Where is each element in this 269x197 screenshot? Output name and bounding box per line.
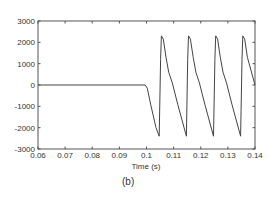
- x-tick-label: 0.11: [166, 151, 182, 160]
- y-tick-label: -2000: [15, 124, 36, 133]
- line-chart: 0.060.070.080.090.10.110.120.130.1430002…: [0, 0, 269, 197]
- x-tick-label: 0.08: [84, 151, 100, 160]
- y-tick-label: -1000: [15, 102, 36, 111]
- x-tick-label: 0.1: [141, 151, 153, 160]
- figure-caption: (b): [122, 176, 134, 187]
- x-tick-label: 0.14: [247, 151, 263, 160]
- x-tick-label: 0.12: [193, 151, 209, 160]
- x-tick-label: 0.07: [57, 151, 73, 160]
- x-axis-label: Time (s): [131, 162, 160, 171]
- plot-area: [38, 21, 255, 149]
- y-tick-label: 2000: [17, 38, 35, 47]
- y-tick-label: -3000: [15, 145, 36, 154]
- y-tick-label: 0: [31, 81, 36, 90]
- y-tick-label: 1000: [17, 60, 35, 69]
- tick-labels: 0.060.070.080.090.10.110.120.130.1430002…: [15, 17, 264, 160]
- x-tick-label: 0.13: [220, 151, 236, 160]
- x-tick-label: 0.09: [112, 151, 128, 160]
- y-tick-label: 3000: [17, 17, 35, 26]
- series-line: [38, 36, 255, 136]
